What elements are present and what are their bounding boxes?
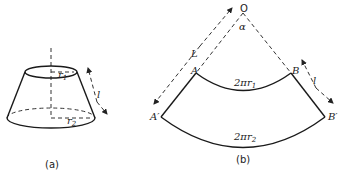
edge-A-A-prime bbox=[161, 73, 196, 117]
edge-B-B-prime bbox=[291, 73, 325, 117]
A-label: A bbox=[190, 65, 198, 76]
L-label: L bbox=[190, 48, 198, 59]
inner-arc-label: 2πr1 bbox=[233, 77, 256, 90]
r2-label: r2 bbox=[67, 115, 77, 128]
bottom-ellipse-front bbox=[7, 118, 95, 128]
right-side bbox=[77, 72, 95, 118]
apex-to-B bbox=[243, 13, 291, 73]
r1-label: r1 bbox=[58, 69, 67, 82]
apex-label: O bbox=[240, 3, 248, 14]
B-prime-label: B′ bbox=[327, 111, 338, 122]
B-label: B bbox=[291, 65, 299, 76]
L-arrow-up bbox=[200, 8, 232, 46]
sector-figure: O α L A B A′ B′ l 2πr1 2πr2 (b) bbox=[149, 3, 338, 165]
slant-arrow-up bbox=[88, 68, 97, 102]
caption-a: (a) bbox=[45, 159, 59, 170]
angle-label: α bbox=[239, 21, 246, 32]
caption-b: (b) bbox=[236, 154, 250, 165]
A-prime-label: A′ bbox=[149, 111, 160, 122]
slant-label-b: l bbox=[313, 75, 316, 86]
diagram-canvas: r1 r2 l (a) O α L A B A′ B′ l 2πr1 2πr2 … bbox=[0, 0, 341, 179]
slant-label: l bbox=[97, 89, 100, 100]
slant-arrow-down bbox=[97, 102, 107, 114]
left-side bbox=[7, 72, 25, 118]
apex-to-A bbox=[196, 13, 243, 73]
slant-arrow-down-b bbox=[316, 88, 333, 103]
outer-arc-label: 2πr2 bbox=[233, 131, 257, 144]
frustum-figure: r1 r2 l (a) bbox=[7, 48, 107, 170]
